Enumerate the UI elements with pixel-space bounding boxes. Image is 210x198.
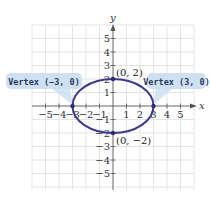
x-axis-label: x xyxy=(199,100,205,111)
x-tick-labels: −5 −4 −3 −2 −1 1 2 3 4 5 xyxy=(38,109,184,120)
svg-text:5: 5 xyxy=(177,109,183,120)
point-left-vertex xyxy=(70,104,74,108)
axes xyxy=(32,24,197,190)
svg-text:−4: −4 xyxy=(95,155,110,166)
ellipse-graph: x y −5 −4 −3 −2 −1 1 2 3 4 5 5 4 3 2 1 −… xyxy=(0,0,210,198)
y-axis-label: y xyxy=(109,12,116,23)
svg-text:Vertex (−3, 0): Vertex (−3, 0) xyxy=(8,77,80,87)
svg-text:3: 3 xyxy=(104,60,110,71)
x-axis-arrow-icon xyxy=(190,104,197,109)
point-top xyxy=(111,77,115,81)
callout-left-vertex: Vertex (−3, 0) xyxy=(6,73,82,105)
point-right-vertex xyxy=(151,104,155,108)
svg-text:−3: −3 xyxy=(95,141,110,152)
point-bottom xyxy=(111,131,115,135)
top-point-label: (0, 2) xyxy=(116,67,143,78)
svg-text:1: 1 xyxy=(123,109,129,120)
svg-text:−1: −1 xyxy=(95,114,110,125)
svg-text:4: 4 xyxy=(104,47,110,58)
svg-text:Vertex (3, 0): Vertex (3, 0) xyxy=(143,77,210,87)
bottom-point-label: (0, −2) xyxy=(116,135,151,146)
svg-text:1: 1 xyxy=(104,87,110,98)
svg-text:5: 5 xyxy=(104,33,110,44)
svg-text:4: 4 xyxy=(164,109,170,120)
svg-text:−5: −5 xyxy=(95,168,110,179)
svg-text:2: 2 xyxy=(137,109,143,120)
